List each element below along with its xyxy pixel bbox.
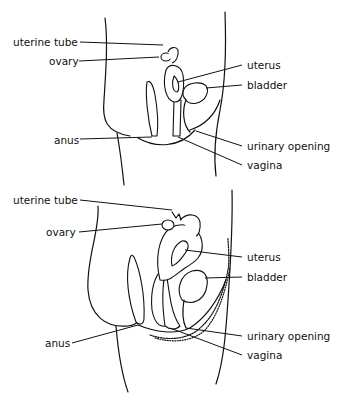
bottom-label-ovary: ovary xyxy=(46,226,76,238)
top-left-buttock-outline xyxy=(104,18,130,136)
top-label-vagina: vagina xyxy=(247,159,282,171)
bottom-fimbriae xyxy=(172,212,181,220)
bottom-leader-bladder xyxy=(205,277,242,278)
top-left-leg-outline xyxy=(117,133,124,185)
top-label-bladder: bladder xyxy=(247,79,288,91)
top-label-anus: anus xyxy=(54,134,79,146)
top-label-urinary-opening: urinary opening xyxy=(247,140,330,152)
bottom-label-vagina: vagina xyxy=(247,349,282,361)
top-bladder[interactable] xyxy=(183,83,208,104)
bottom-ovary[interactable] xyxy=(162,220,174,230)
bottom-left-leg-outline xyxy=(116,326,128,392)
top-rectum[interactable] xyxy=(146,82,157,136)
anatomy-diagram: uterine tube ovary uterus bladder anus u… xyxy=(0,0,340,402)
top-label-ovary: ovary xyxy=(49,55,79,67)
top-urethra xyxy=(184,100,190,132)
top-leader-vagina xyxy=(178,137,242,165)
bottom-urethra xyxy=(183,300,186,328)
top-vagina-tube[interactable] xyxy=(173,100,181,136)
bottom-bladder[interactable] xyxy=(179,270,207,302)
top-leader-urinary-opening xyxy=(196,131,242,146)
bottom-label-uterus: uterus xyxy=(247,251,281,263)
bottom-label-bladder: bladder xyxy=(247,271,288,283)
bottom-rectum[interactable] xyxy=(128,255,145,324)
bottom-diagram: uterine tube ovary uterus bladder anus u… xyxy=(13,190,330,392)
top-label-uterine-tube: uterine tube xyxy=(13,36,78,48)
bottom-leader-ovary xyxy=(79,224,162,232)
top-leader-ovary xyxy=(79,57,159,61)
top-right-hip-curve xyxy=(190,100,220,130)
top-diagram: uterine tube ovary uterus bladder anus u… xyxy=(13,12,330,185)
top-right-body-outline xyxy=(215,12,226,176)
bottom-leader-uterine-tube xyxy=(80,200,172,210)
bottom-label-urinary-opening: urinary opening xyxy=(247,330,330,342)
top-leader-anus xyxy=(80,137,152,139)
bottom-label-uterine-tube: uterine tube xyxy=(13,194,78,206)
top-leader-uterus xyxy=(178,65,242,82)
top-label-uterus: uterus xyxy=(247,59,281,71)
top-uterine-tube[interactable] xyxy=(168,48,178,63)
top-leader-uterine-tube xyxy=(80,42,163,45)
bottom-leader-anus xyxy=(72,325,138,343)
bottom-leader-vagina xyxy=(170,328,242,355)
bottom-label-anus: anus xyxy=(45,337,70,349)
